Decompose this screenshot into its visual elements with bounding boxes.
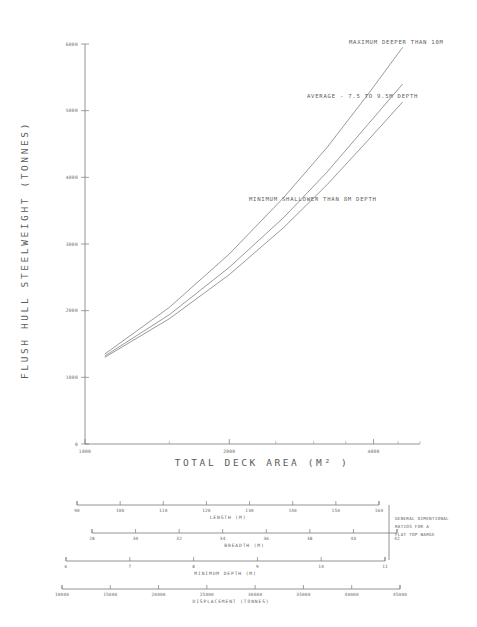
plot-svg: 0100020003000400050006000 100020004000 M… xyxy=(0,0,477,470)
annotation-group: MAXIMUM DEEPER THAN 10MAVERAGE - 7.5 TO … xyxy=(249,39,444,202)
note-line-1: GENERAL DIMENTIONAL xyxy=(395,516,449,521)
nomogram-svg: 90100110120130140150160LENGTH (M)2830323… xyxy=(0,470,477,627)
nomogram-tick-label: 20000 xyxy=(151,592,165,597)
y-axis-tick-label: 3000 xyxy=(66,242,78,247)
y-axis-tick-label: 4000 xyxy=(66,175,78,180)
y-axis-tick-label: 5000 xyxy=(66,108,78,113)
nomogram-tick-label: 45000 xyxy=(393,592,407,597)
y-axis-tick-label: 6000 xyxy=(66,42,78,47)
note-line-2: RATIOS FOR A xyxy=(395,524,429,529)
nomogram-tick-label: 36 xyxy=(263,536,269,541)
nomogram-scale-title: LENGTH (M) xyxy=(210,515,247,520)
nomogram-tick-label: 140 xyxy=(288,508,297,513)
nomogram-tick-label: 30000 xyxy=(248,592,262,597)
nomogram-tick-label: 30 xyxy=(133,536,139,541)
nomogram-tick-label: 90 xyxy=(74,508,80,513)
nomogram-panel: 90100110120130140150160LENGTH (M)2830323… xyxy=(0,470,477,627)
main-chart: 0100020003000400050006000 100020004000 M… xyxy=(0,0,477,470)
x-axis-tick-label: 2000 xyxy=(223,449,235,454)
nomogram-tick-label: 10 xyxy=(318,564,324,569)
chart-sheet: 0100020003000400050006000 100020004000 M… xyxy=(0,0,477,627)
nomogram-tick-label: 25000 xyxy=(200,592,214,597)
nomogram-tick-label: 11 xyxy=(382,564,388,569)
y-axis-title: FLUSH HULL STEELWEIGHT (TONNES) xyxy=(19,121,30,379)
nomogram-tick-label: 28 xyxy=(89,536,95,541)
x-axis: 100020004000 xyxy=(79,439,420,454)
nomogram-tick-label: 7 xyxy=(128,564,131,569)
x-axis-tick-label: 1000 xyxy=(79,449,91,454)
nomogram-scale-title: DISPLACEMENT (TONNES) xyxy=(193,599,270,604)
nomogram-tick-label: 38 xyxy=(307,536,313,541)
nomogram-tick-label: 110 xyxy=(159,508,168,513)
nomogram-tick-label: 6 xyxy=(65,564,68,569)
nomogram-tick-label: 150 xyxy=(332,508,341,513)
x-axis-tick-label: 4000 xyxy=(367,449,379,454)
nomogram-tick-label: 120 xyxy=(202,508,211,513)
data-series-line xyxy=(105,84,403,356)
nomogram-tick-label: 35000 xyxy=(296,592,310,597)
series-annotation: MINIMUM SHALLOWER THAN 8M DEPTH xyxy=(249,196,377,202)
y-axis-tick-label: 1000 xyxy=(66,375,78,380)
nomogram-tick-label: 130 xyxy=(245,508,254,513)
series-annotation: AVERAGE - 7.5 TO 9.5M DEPTH xyxy=(307,93,418,99)
nomogram-scale-title: BREADTH (M) xyxy=(224,543,264,548)
nomogram-tick-label: 40000 xyxy=(345,592,359,597)
nomogram-tick-label: 32 xyxy=(176,536,182,541)
nomogram-tick-label: 9 xyxy=(256,564,259,569)
nomogram-tick-label: 8 xyxy=(192,564,195,569)
nomogram-tick-label: 15000 xyxy=(103,592,117,597)
note-line-3: FLAT TOP BARGE xyxy=(395,532,435,537)
nomogram-tick-label: 10000 xyxy=(55,592,69,597)
data-series-line xyxy=(105,102,403,357)
nomogram-tick-label: 160 xyxy=(375,508,384,513)
y-axis-tick-label: 0 xyxy=(75,442,78,447)
nomogram-tick-label: 34 xyxy=(220,536,226,541)
y-axis: 0100020003000400050006000 xyxy=(66,42,89,447)
nomogram-scales: 90100110120130140150160LENGTH (M)2830323… xyxy=(55,501,407,604)
nomogram-tick-label: 40 xyxy=(351,536,357,541)
nomogram-scale-title: MINIMUM DEPTH (M) xyxy=(194,571,256,576)
x-axis-title: TOTAL DECK AREA (M² ) xyxy=(175,457,350,468)
series-annotation: MAXIMUM DEEPER THAN 10M xyxy=(349,39,444,45)
y-axis-tick-label: 2000 xyxy=(66,308,78,313)
nomogram-tick-label: 100 xyxy=(116,508,125,513)
